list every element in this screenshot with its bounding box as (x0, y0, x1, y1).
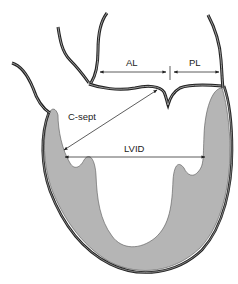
left-outflow-vessel (12, 63, 50, 113)
lv-diagram: AL PL C-sept LVID (0, 0, 238, 284)
upper-vessel-left-branch (58, 27, 89, 83)
right-vessel (208, 15, 223, 88)
label-lvid: LVID (124, 143, 145, 154)
label-al: AL (126, 57, 138, 68)
upper-vessel-right-branch (91, 13, 107, 83)
label-pl: PL (189, 57, 201, 68)
label-c-sept: C-sept (68, 111, 96, 122)
